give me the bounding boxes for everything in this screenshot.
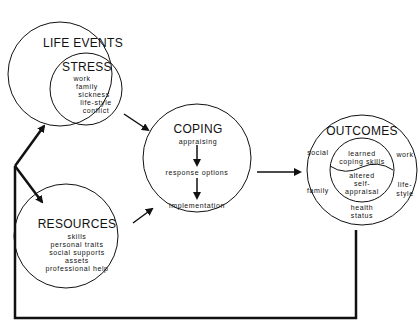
arrow-life-to-coping <box>124 114 148 130</box>
stress-item: conflict <box>83 106 110 115</box>
coping-step: response options <box>166 168 229 177</box>
coping-title: COPING <box>173 123 222 135</box>
outcomes-outer-item: status <box>351 211 373 220</box>
outcomes-inner-item: appraisal <box>345 187 379 196</box>
arrow-resources-to-coping <box>133 209 152 223</box>
coping-step: appraising <box>179 137 217 146</box>
arrow-loop-to-resources <box>15 166 42 202</box>
outcomes-outer-item: life- <box>398 180 412 189</box>
arrow-loop-to-life-events <box>15 126 44 166</box>
stress-title: STRESS <box>62 61 112 73</box>
coping-step: implementation <box>169 201 225 210</box>
life-events-title: LIFE EVENTS <box>43 37 123 49</box>
outcomes-inner-item: coping skills <box>339 157 385 166</box>
resources-item: professional help <box>45 264 108 273</box>
resources-title: RESOURCES <box>38 218 117 230</box>
outcomes-outer-item: social <box>307 148 329 157</box>
outcomes-title: OUTCOMES <box>326 125 398 137</box>
outcomes-outer-item: work <box>396 150 413 159</box>
outcomes-outer-item: style <box>396 189 413 198</box>
outcomes-outer-item: family <box>307 186 329 195</box>
